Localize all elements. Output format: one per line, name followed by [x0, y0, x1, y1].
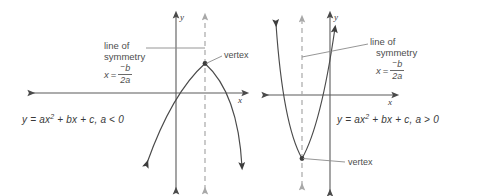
right-symmetry-formula: x = −b 2a	[376, 59, 404, 81]
right-formula-equals: =	[383, 65, 389, 76]
left-formula-denominator: 2a	[118, 75, 132, 85]
right-formula-denominator: 2a	[390, 71, 404, 81]
right-equation-rest: + bx + c, a > 0	[372, 114, 439, 125]
right-x-axis-label: x	[388, 97, 392, 107]
right-equation-term1: ax	[354, 114, 365, 125]
right-formula-b: b	[397, 59, 402, 69]
left-formula-equals: =	[111, 69, 117, 80]
left-y-axis-label: y	[180, 12, 184, 22]
right-vertex-label: vertex	[348, 157, 373, 167]
right-symmetry-line1: line of	[370, 36, 417, 47]
left-vertex-label: vertex	[224, 50, 249, 60]
right-symmetry-line2: symmetry	[376, 47, 417, 58]
left-equation-lhs: y =	[22, 114, 36, 125]
left-equation-rest: + bx + c, a < 0	[57, 114, 124, 125]
right-formula-fraction: −b 2a	[390, 59, 404, 81]
right-equation: y = ax2 + bx + c, a > 0	[337, 114, 439, 125]
left-formula-numerator: −b	[118, 63, 132, 74]
right-symmetry-leader	[302, 44, 368, 57]
left-formula-fraction: −b 2a	[118, 63, 132, 85]
right-vertex-leader	[303, 159, 345, 163]
left-vertex-leader	[206, 56, 222, 64]
left-parabola-curve	[147, 64, 242, 168]
right-y-axis-label: y	[334, 12, 338, 22]
left-x-axis-label: x	[238, 95, 242, 105]
left-symmetry-formula: x = −b 2a	[104, 63, 132, 85]
left-formula-variable: x	[104, 69, 109, 80]
quadratic-graphs-figure: line of symmetry x = −b 2a vertex y x y …	[0, 0, 481, 196]
left-symmetry-line2: symmetry	[104, 51, 145, 62]
right-equation-exponent: 2	[365, 113, 369, 120]
right-formula-variable: x	[376, 65, 381, 76]
left-equation-term1: ax	[39, 114, 50, 125]
left-formula-b: b	[125, 63, 130, 73]
left-equation: y = ax2 + bx + c, a < 0	[22, 114, 124, 125]
right-parabola-curve	[276, 24, 335, 159]
left-equation-exponent: 2	[50, 113, 54, 120]
right-equation-lhs: y =	[337, 114, 351, 125]
left-symmetry-label: line of symmetry x = −b 2a	[104, 40, 145, 85]
left-symmetry-line1: line of	[104, 40, 145, 51]
right-formula-numerator: −b	[390, 59, 404, 70]
right-symmetry-label: line of symmetry x = −b 2a	[370, 36, 417, 81]
